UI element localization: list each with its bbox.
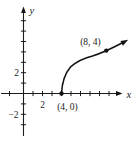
figure-background (0, 0, 137, 146)
point-label-8-4: (8, 4) (80, 37, 101, 48)
y-tick-label-negative: −2 (8, 110, 18, 120)
x-tick-label: 2 (40, 100, 45, 110)
point-label-4-0: (4, 0) (57, 102, 78, 113)
x-axis-label: x (126, 89, 132, 100)
point-dot-origin-of-curve (59, 91, 63, 95)
y-tick-label-positive: 2 (14, 68, 19, 78)
graph-figure: 2 x 2 −2 y (4, 0) (8, 4) (0, 0, 137, 146)
point-dot-on-curve (104, 48, 108, 52)
y-axis-label: y (29, 5, 35, 16)
